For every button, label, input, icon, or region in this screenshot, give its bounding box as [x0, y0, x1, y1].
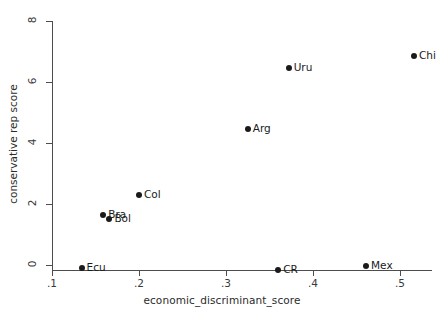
- y-tick-mark: [46, 204, 52, 205]
- x-tick-label: .4: [298, 277, 328, 289]
- y-tick-mark: [46, 82, 52, 83]
- data-point: [363, 263, 369, 269]
- y-axis-line: [52, 21, 53, 270]
- y-tick-label: 4: [26, 132, 38, 152]
- x-tick-mark: [139, 270, 140, 276]
- x-tick-label: .5: [385, 277, 415, 289]
- x-tick-mark: [400, 270, 401, 276]
- x-axis-title: economic_discriminant_score: [0, 294, 444, 306]
- data-point: [286, 65, 292, 71]
- data-point-label: Uru: [294, 61, 313, 73]
- y-axis-title: conservative rep score: [7, 84, 19, 204]
- data-point: [275, 267, 281, 273]
- x-tick-mark: [313, 270, 314, 276]
- y-tick-label: 0: [26, 254, 38, 274]
- y-tick-mark: [46, 265, 52, 266]
- y-tick-label: 8: [26, 10, 38, 30]
- data-point: [106, 216, 112, 222]
- x-tick-mark: [226, 270, 227, 276]
- data-point: [245, 126, 251, 132]
- x-tick-label: .1: [37, 277, 67, 289]
- y-tick-label: 2: [26, 193, 38, 213]
- data-point: [136, 192, 142, 198]
- y-tick-mark: [46, 143, 52, 144]
- data-point: [411, 53, 417, 59]
- plot-area: 02468 .1.2.3.4.5 EcuBraBolColArgUruCRMex…: [0, 0, 444, 315]
- data-point-label: CR: [283, 263, 298, 275]
- y-tick-label: 6: [26, 71, 38, 91]
- data-point-label: Ecu: [87, 261, 106, 273]
- data-point-label: Mex: [371, 259, 393, 271]
- data-point-label: Col: [144, 188, 161, 200]
- data-point: [79, 265, 85, 271]
- data-point-label: Bol: [114, 212, 131, 224]
- x-tick-label: .2: [124, 277, 154, 289]
- data-point-label: Chi: [419, 49, 436, 61]
- x-tick-label: .3: [211, 277, 241, 289]
- y-tick-mark: [46, 21, 52, 22]
- data-point-label: Arg: [253, 122, 271, 134]
- scatter-plot-figure: 02468 .1.2.3.4.5 EcuBraBolColArgUruCRMex…: [0, 0, 444, 315]
- x-tick-mark: [52, 270, 53, 276]
